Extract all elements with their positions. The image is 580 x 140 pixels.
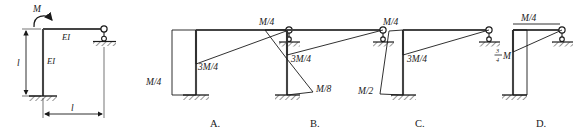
stiffness-label-beam: EI (61, 32, 71, 42)
option-d-beam-moment-diagram (513, 30, 562, 52)
option-d-roller-wheel-icon (560, 37, 565, 42)
option-a[interactable]: 3M/4 M/4 A. (145, 27, 300, 129)
option-c-roller-wheel-icon (487, 37, 492, 42)
option-a-letter: A. (210, 118, 220, 129)
stiffness-label-column: EI (46, 56, 56, 66)
option-c-beam-moment-label: 3M/4 (406, 54, 427, 64)
dim-vertical-label: l (17, 58, 20, 68)
option-d-fraction-symbol: M (502, 51, 512, 61)
applied-moment-label: M (32, 4, 42, 14)
option-d-fraction-numerator: 3 (495, 47, 499, 54)
option-a-beam-moment-label: 3M/4 (197, 62, 218, 72)
option-b-roller-wheel-icon (381, 37, 386, 42)
frame-moment-diagram-figure: M EI EI l l (0, 0, 580, 140)
option-a-beam-moment-diagram (196, 30, 289, 64)
option-b-fixed-support-hatch-icon (275, 95, 300, 100)
option-a-column-moment-diagram (172, 30, 196, 95)
option-b-column-bottom-moment-label: M/8 (315, 84, 332, 94)
roller-support-pin-icon (101, 26, 107, 32)
option-d-column-moment-label: 3 4 M (495, 47, 513, 63)
roller-support-hatch-icon (93, 42, 116, 47)
option-b-letter: B. (310, 118, 320, 129)
option-a-roller-hatch-icon (279, 42, 300, 47)
option-b-column-moment-diagram-lower (287, 59, 313, 95)
option-a-column-moment-label: M/4 (145, 77, 162, 87)
option-b-beam-moment-label: 3M/4 (290, 54, 311, 64)
option-c-column-bottom-moment-label: M/2 (357, 86, 374, 96)
option-b-column-top-moment-label: M/4 (258, 17, 275, 27)
figure-root: M EI EI l l (0, 0, 580, 140)
option-c-letter: C. (415, 118, 425, 129)
option-c-fixed-support-hatch-icon (391, 95, 416, 100)
option-c-roller-hatch-icon (479, 42, 500, 47)
option-d-column-moment-diagram (513, 30, 527, 95)
roller-support-wheel-icon (102, 36, 107, 41)
option-d-fixed-support-hatch-icon (502, 95, 527, 100)
dim-horizontal-label: l (71, 103, 74, 113)
option-c-column-top-moment-label: M/4 (382, 17, 399, 27)
option-d-letter: D. (536, 118, 546, 129)
option-d-fraction-denominator: 4 (496, 56, 499, 63)
option-d-beam-moment-label: M/4 (520, 13, 537, 23)
option-b-roller-hatch-icon (373, 42, 394, 47)
option-d[interactable]: M/4 3 4 M D. (495, 13, 574, 129)
given-structure: M EI EI l l (17, 4, 116, 118)
option-b-beam-moment-diagram (287, 30, 383, 55)
option-a-fixed-support-hatch-icon (183, 95, 209, 100)
option-c-beam-moment-diagram (403, 30, 489, 55)
option-c[interactable]: M/4 3M/4 M/2 C. (357, 17, 500, 129)
applied-moment-arrow (34, 16, 52, 27)
option-d-roller-hatch-icon (552, 42, 573, 47)
